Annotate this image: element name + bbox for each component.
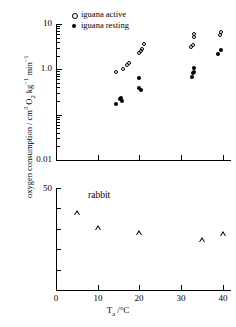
y-tick-label: 1.0 — [20, 64, 52, 73]
data-point — [139, 88, 143, 92]
y-tick — [56, 138, 60, 139]
y-tick — [56, 48, 60, 49]
y-tick — [56, 208, 61, 209]
x-tick — [223, 285, 224, 290]
y-tick — [56, 93, 60, 94]
data-point — [127, 61, 131, 65]
data-point — [191, 43, 195, 47]
data-point — [74, 210, 80, 215]
y-tick — [56, 125, 60, 126]
y-tick — [56, 79, 60, 80]
legend-label-resting: iguana resting — [81, 20, 129, 31]
data-point — [192, 70, 196, 74]
x-tick-label: 10 — [86, 294, 110, 303]
y-tick — [56, 76, 60, 77]
x-tick — [98, 155, 99, 160]
y-tick-label: 0.01 — [20, 155, 52, 164]
y-tick — [56, 119, 60, 120]
y-tick — [56, 270, 61, 271]
y-tick — [56, 229, 61, 230]
y-tick — [56, 71, 60, 72]
data-point — [140, 47, 144, 51]
data-point — [114, 70, 118, 74]
data-point — [120, 99, 124, 103]
x-tick — [181, 285, 182, 290]
y-tick — [56, 31, 60, 32]
y-tick-label: 10 — [20, 19, 52, 28]
y-tick — [56, 128, 60, 129]
y-tick — [56, 28, 60, 29]
data-point — [220, 231, 226, 236]
data-point — [190, 75, 194, 79]
x-tick-label: 20 — [127, 294, 151, 303]
y-tick — [56, 117, 60, 118]
x-axis-label: Ta /°C — [0, 305, 236, 317]
x-tick — [139, 155, 140, 160]
y-tick — [56, 26, 60, 27]
x-tick-label: 0 — [44, 294, 68, 303]
y-tick — [56, 188, 61, 189]
y-tick — [56, 42, 60, 43]
data-point — [192, 32, 196, 36]
open-circle-marker-icon — [72, 13, 78, 19]
y-tick — [56, 69, 62, 70]
y-tick — [56, 56, 60, 57]
x-tick — [139, 285, 140, 290]
y-tick — [56, 160, 62, 161]
y-tick — [56, 87, 60, 88]
y-tick — [56, 122, 60, 123]
y-tick-label: 50 — [20, 184, 52, 193]
data-point — [199, 237, 205, 242]
x-tick — [56, 285, 57, 290]
y-tick — [56, 74, 60, 75]
panel-label-rabbit: rabbit — [88, 190, 110, 200]
y-tick — [56, 115, 62, 116]
filled-circle-marker-icon — [72, 24, 76, 28]
data-point — [114, 102, 118, 106]
x-tick-label: 30 — [169, 294, 193, 303]
data-point — [216, 52, 220, 56]
data-point — [142, 42, 146, 46]
data-point — [95, 225, 101, 230]
y-tick — [56, 249, 61, 250]
iguana-x-axis — [56, 160, 231, 161]
figure-root: oxygen consumption / cm3 O2 kg−1 min−1 1… — [0, 0, 236, 327]
data-point — [136, 230, 142, 235]
y-tick — [56, 24, 62, 25]
rabbit-x-axis — [56, 290, 231, 291]
rabbit-y-axis — [56, 188, 57, 290]
x-tick — [98, 285, 99, 290]
legend-label-active: iguana active — [81, 9, 126, 20]
y-tick — [56, 83, 60, 84]
y-tick — [56, 38, 60, 39]
data-point — [121, 67, 125, 71]
x-tick — [223, 155, 224, 160]
data-point — [219, 30, 223, 34]
y-tick — [56, 290, 61, 291]
data-point — [219, 48, 223, 52]
y-tick — [56, 133, 60, 134]
x-tick — [181, 155, 182, 160]
y-tick — [56, 34, 60, 35]
x-tick — [56, 155, 57, 160]
y-tick — [56, 146, 60, 147]
x-tick-label: 40 — [211, 294, 235, 303]
data-point — [137, 76, 141, 80]
y-tick — [56, 101, 60, 102]
y-axis-label: oxygen consumption / cm3 O2 kg−1 min−1 — [22, 32, 36, 222]
